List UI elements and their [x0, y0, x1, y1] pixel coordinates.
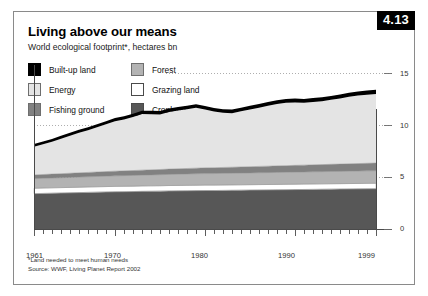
legend-column-left: Built-up land Energy Fishing ground — [28, 60, 104, 120]
legend-column-right: Forest Grazing land Cropland — [131, 60, 200, 120]
legend-label-fishing-ground: Fishing ground — [49, 105, 104, 115]
legend-swatch-fishing-ground — [28, 103, 41, 116]
figure-number-badge: 4.13 — [377, 11, 415, 30]
x-tick-1990: 1990 — [278, 251, 295, 260]
x-tick-1980: 1980 — [191, 251, 208, 260]
chart-source: Source: WWF, Living Planet Report 2002 — [28, 265, 140, 272]
chart-x-ticks — [34, 229, 376, 236]
band-edge-3 — [34, 163, 376, 175]
area-cropland — [34, 189, 376, 229]
legend-label-grazing-land: Grazing land — [152, 85, 200, 95]
figure-page: 4.13 Living above our means World ecolog… — [0, 0, 428, 296]
legend-item-grazing-land[interactable]: Grazing land — [131, 80, 200, 99]
figure-frame: 4.13 Living above our means World ecolog… — [13, 11, 415, 285]
band-edge-0 — [34, 189, 376, 194]
y-tick-5: 5 — [400, 172, 404, 181]
y-tick-0: 0 — [400, 224, 404, 233]
legend-item-energy[interactable]: Energy — [28, 80, 104, 99]
legend-swatch-grazing-land — [131, 83, 144, 96]
legend-item-fishing-ground[interactable]: Fishing ground — [28, 100, 104, 119]
band-edge-2 — [34, 171, 376, 179]
legend-item-cropland[interactable]: Cropland — [131, 100, 200, 119]
area-forest — [34, 171, 376, 188]
x-tick-1999: 1999 — [358, 251, 375, 260]
page-title: Living above our means — [28, 24, 177, 39]
chart-footnote: *Land needed to meet human needs — [28, 256, 128, 263]
area-grazing-land — [34, 183, 376, 193]
legend-label-energy: Energy — [49, 85, 76, 95]
y-tick-15: 15 — [400, 69, 408, 78]
band-edge-1 — [34, 183, 376, 188]
legend-swatch-cropland — [131, 103, 144, 116]
legend-label-cropland: Cropland — [152, 105, 186, 115]
legend-swatch-forest — [131, 63, 144, 76]
chart-subtitle: World ecological footprint*, hectares bn — [28, 42, 177, 52]
legend-item-built-up-land[interactable]: Built-up land — [28, 60, 104, 79]
legend-label-built-up-land: Built-up land — [49, 65, 96, 75]
y-tick-10: 10 — [400, 121, 408, 130]
legend-item-forest[interactable]: Forest — [131, 60, 200, 79]
legend-label-forest: Forest — [152, 65, 176, 75]
legend-swatch-built-up-land — [28, 63, 41, 76]
legend-swatch-energy — [28, 83, 41, 96]
area-fishing-ground — [34, 163, 376, 179]
stacked-area-chart — [14, 12, 416, 286]
